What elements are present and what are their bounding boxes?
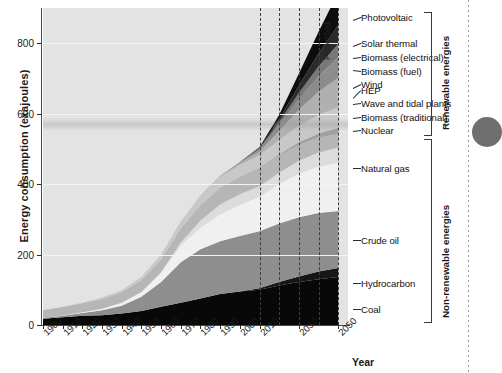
projection-divider-2040 xyxy=(319,8,320,325)
y-tick-400 xyxy=(37,184,41,185)
y-tick-label-0: 0 xyxy=(12,320,34,331)
legend-label-nuclear: Nuclear xyxy=(361,125,394,136)
legend-leader-coal xyxy=(353,309,361,310)
bracket-non-renewable-label: Non-renewable energies xyxy=(440,205,451,318)
gridline-600 xyxy=(43,114,348,115)
legend-label-crude-oil: Crude oil xyxy=(361,235,399,246)
y-tick-label-400: 400 xyxy=(12,179,34,190)
projection-divider-2020 xyxy=(279,8,280,325)
legend-leader-biomass-electrical xyxy=(353,57,361,59)
y-axis-title: Energy consumption (exajoules) xyxy=(18,26,30,286)
legend-label-coal: Coal xyxy=(361,304,381,315)
legend-label-hydrocarbon: Hydrocarbon xyxy=(361,278,415,289)
y-tick-600 xyxy=(37,114,41,115)
legend-label-natural-gas: Natural gas xyxy=(361,163,410,174)
y-tick-label-600: 600 xyxy=(12,108,34,119)
gridline-400 xyxy=(43,184,348,185)
page-edge-dotted-line xyxy=(468,0,469,373)
projection-divider-2050 xyxy=(338,8,339,325)
legend-leader-wind xyxy=(353,84,361,89)
legend-label-wave-and-tidal-plants: Wave and tidal plants xyxy=(361,98,451,109)
bracket-non-renewable xyxy=(424,139,432,323)
legend-leader-crude-oil xyxy=(353,240,361,241)
stacked-area-series xyxy=(43,8,348,325)
y-tick-0 xyxy=(37,325,41,326)
legend-label-solar-thermal: Solar thermal xyxy=(361,38,417,49)
legend-leader-wave-and-tidal-plants xyxy=(353,103,361,105)
x-axis-title: Year xyxy=(352,356,374,368)
page-edge-circle-mark xyxy=(472,117,502,147)
y-tick-200 xyxy=(37,255,41,256)
y-axis-line xyxy=(41,8,42,325)
bracket-renewable xyxy=(424,12,432,136)
legend-leader-nuclear xyxy=(353,130,361,132)
legend-leader-photovoltaic xyxy=(353,17,361,21)
projection-divider-2010 xyxy=(260,8,261,325)
plot-area xyxy=(43,8,348,325)
y-tick-label-200: 200 xyxy=(12,249,34,260)
projection-divider-2030 xyxy=(299,8,300,325)
gridline-800 xyxy=(43,43,348,44)
y-tick-label-800: 800 xyxy=(12,38,34,49)
legend-leader-solar-thermal xyxy=(353,43,361,47)
legend-leader-biomass-traditional xyxy=(353,117,361,119)
legend-label-biomass-fuel: Biomass (fuel) xyxy=(361,66,422,77)
legend-label-hep: HEP xyxy=(361,85,381,96)
legend-leader-natural-gas xyxy=(353,168,361,169)
legend-label-biomass-traditional: Biomass (traditional) xyxy=(361,112,447,123)
legend-label-photovoltaic: Photovoltaic xyxy=(361,12,413,23)
bracket-renewable-label: Renewable energies xyxy=(440,36,451,130)
projected-label: Projected xyxy=(322,22,332,60)
gridline-200 xyxy=(43,255,348,256)
legend-leader-hydrocarbon xyxy=(353,283,361,284)
y-tick-800 xyxy=(37,43,41,44)
legend-leader-biomass-fuel xyxy=(353,70,361,72)
